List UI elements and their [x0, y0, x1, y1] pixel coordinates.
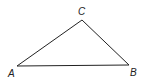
vertex-label-c: C: [78, 6, 86, 17]
vertex-label-a: A: [7, 68, 15, 78]
vertex-label-b: B: [130, 67, 137, 78]
triangle-diagram: A B C: [0, 0, 142, 78]
triangle-abc: [17, 20, 129, 66]
